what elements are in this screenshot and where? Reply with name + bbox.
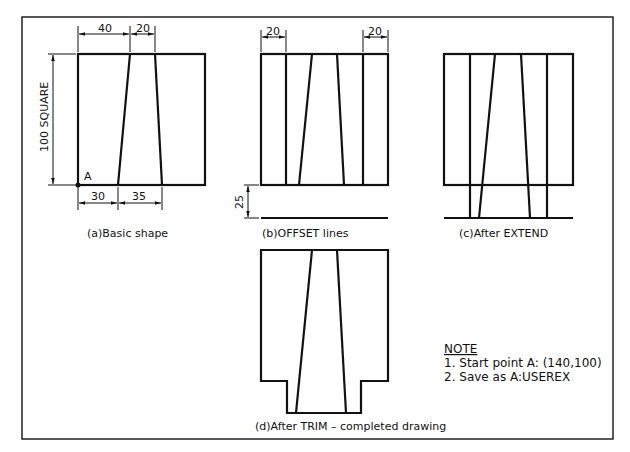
- dim-label-side: 100 SQUARE: [38, 82, 51, 152]
- extended-slant-right: [521, 54, 530, 218]
- dim-label-offset: 25: [233, 195, 246, 209]
- caption-b: (b)OFFSET lines: [262, 227, 349, 240]
- dim-label-top-right: 20: [136, 22, 150, 35]
- dim-label-bottom-left: 30: [91, 190, 105, 203]
- note-line-1: 1. Start point A: (140,100): [444, 356, 602, 370]
- dim-label-bottom-right: 35: [132, 190, 146, 203]
- drawing-canvas: A 40 20 100 SQUARE 30 35 (a)Basic shape: [0, 0, 630, 452]
- panel-b-offset-lines: 20 20 25 (b)OFFSET lines: [233, 25, 388, 240]
- slant-line-right: [337, 250, 346, 413]
- slant-line-right: [337, 54, 344, 185]
- dim-label-top-left: 40: [98, 22, 112, 35]
- trimmed-outline: [261, 250, 388, 413]
- note-title: NOTE: [444, 342, 477, 356]
- extended-slant-left: [479, 54, 495, 218]
- panel-c-after-extend: (c)After EXTEND: [444, 54, 573, 240]
- caption-a: (a)Basic shape: [87, 227, 168, 240]
- slant-line-left: [296, 250, 312, 413]
- start-point-a-marker: [76, 183, 81, 188]
- note-line-2: 2. Save as A:USEREX: [444, 370, 570, 384]
- dim-label-top-right: 20: [368, 25, 382, 38]
- caption-c: (c)After EXTEND: [459, 227, 548, 240]
- point-a-label: A: [84, 170, 92, 183]
- caption-d: (d)After TRIM – completed drawing: [255, 420, 446, 433]
- dim-label-top-left: 20: [266, 25, 280, 38]
- square-outline: [444, 54, 573, 185]
- note-block: NOTE 1. Start point A: (140,100) 2. Save…: [444, 342, 602, 384]
- slant-line-right: [155, 54, 162, 185]
- slant-line-left: [299, 54, 312, 185]
- square-outline: [261, 54, 388, 185]
- panel-d-after-trim: (d)After TRIM – completed drawing: [255, 250, 446, 433]
- slant-line-left: [118, 54, 130, 185]
- square-outline: [78, 54, 205, 185]
- panel-a-basic-shape: A 40 20 100 SQUARE 30 35 (a)Basic shape: [38, 22, 205, 240]
